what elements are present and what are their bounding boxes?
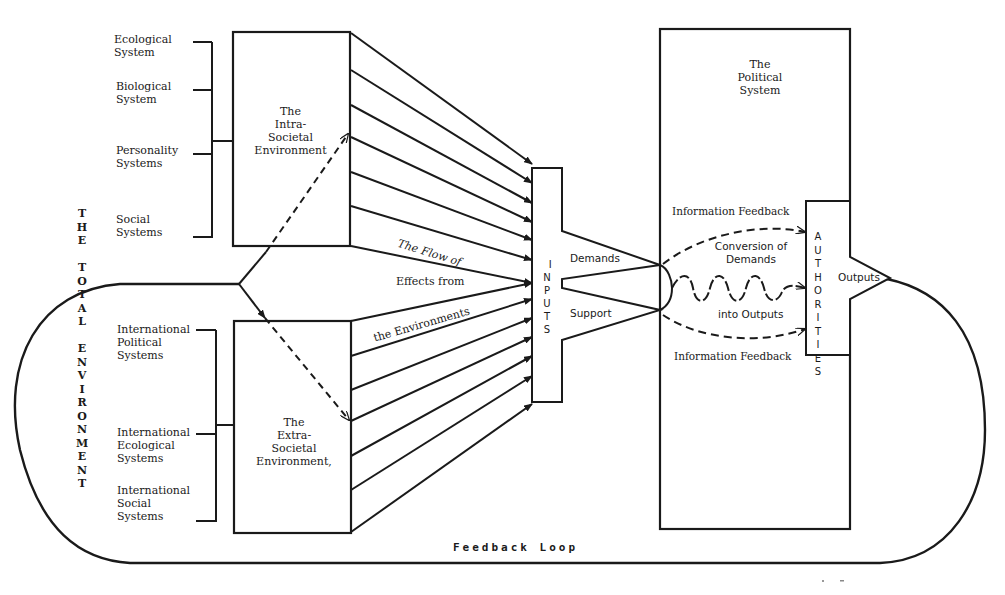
authorities-text: A U T H O R I T I E S (814, 231, 822, 377)
biological-system-label: Biological System (116, 80, 171, 106)
ecological-system-label: Ecological System (114, 33, 172, 59)
personality-systems-label: Personality Systems (116, 144, 178, 170)
conversion-wave (672, 276, 805, 301)
extra-societal-box-label: The Extra- Societal Environment, (248, 416, 340, 468)
intl-political-systems-label: International Political Systems (117, 323, 190, 362)
flow-line-2: Effects from (396, 275, 464, 288)
info-feedback-bottom-label: Information Feedback (674, 350, 791, 363)
intra-societal-box-label: The Intra- Societal Environment (248, 105, 333, 157)
intl-social-systems-label: International Social Systems (117, 484, 190, 523)
demands-label: Demands (570, 252, 620, 265)
support-label: Support (570, 307, 612, 320)
inputs-label: I N P U T S (541, 245, 553, 336)
social-systems-label: Social Systems (116, 213, 162, 239)
total-environment-text: T H E T O T A L E N V I R O N M E N T (76, 207, 88, 490)
political-system-title: The Political System (725, 58, 795, 97)
extra-bracket (196, 330, 233, 522)
conversion-bottom-label: into Outputs (718, 308, 783, 321)
authorities-label: A U T H O R I T I E S (812, 203, 824, 379)
inputs-text: I N P U T S (543, 259, 551, 335)
feedback-loop-label: Feedback Loop (453, 541, 578, 554)
outputs-label: Outputs (838, 271, 880, 284)
intl-ecological-systems-label: International Ecological Systems (117, 426, 190, 465)
intra-flow-arrows (351, 33, 532, 283)
intra-bracket (193, 42, 233, 238)
conversion-top-label: Conversion of Demands (706, 240, 796, 266)
total-environment-label: T H E T O T A L E N V I R O N M E N T (75, 180, 89, 491)
info-feedback-top-label: Information Feedback (672, 205, 789, 218)
